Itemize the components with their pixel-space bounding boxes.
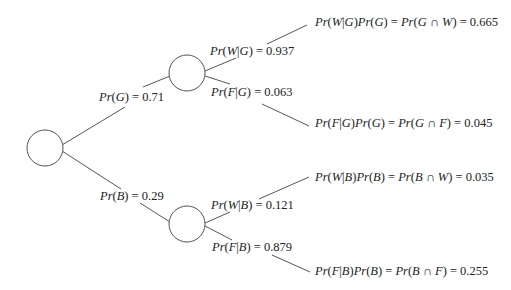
label-pr-f-given-b: Pr(F|B) = 0.879 (212, 240, 292, 254)
edge-root-to-b-a (62, 151, 121, 189)
edge-b-to-w-a (205, 212, 230, 223)
edge-root-to-g-a (62, 107, 125, 145)
edge-b-to-w-b (259, 177, 309, 199)
edge-g-to-f-a (205, 76, 230, 84)
label-pr-f-given-g: Pr(F|G) = 0.063 (211, 85, 292, 99)
edge-root-to-b-b (140, 203, 170, 222)
label-pr-g: Pr(G) = 0.71 (99, 90, 164, 104)
label-pr-w-given-g: Pr(W|G) = 0.937 (210, 44, 294, 58)
label-pr-b: Pr(B) = 0.29 (100, 189, 164, 203)
outcome-g-f: Pr(F|G)Pr(G) = Pr(G ∩ F) = 0.045 (315, 116, 492, 130)
edge-g-to-w-b (267, 25, 307, 44)
node-g (169, 55, 205, 91)
node-b (169, 206, 205, 242)
edge-g-to-f-b (262, 104, 309, 126)
outcome-b-f: Pr(F|B)Pr(B) = Pr(B ∩ F) = 0.255 (315, 264, 488, 278)
edge-g-to-w-a (205, 58, 236, 71)
label-pr-w-given-b: Pr(W|B) = 0.121 (211, 198, 294, 212)
edge-b-to-f-a (205, 226, 232, 240)
outcome-b-w: Pr(W|B)Pr(B) = Pr(B ∩ W) = 0.035 (315, 170, 494, 184)
root-node (27, 130, 63, 166)
edge-root-to-g-b (143, 76, 170, 87)
edge-b-to-f-b (272, 255, 310, 272)
outcome-g-w: Pr(W|G)Pr(G) = Pr(G ∩ W) = 0.665 (315, 15, 498, 29)
